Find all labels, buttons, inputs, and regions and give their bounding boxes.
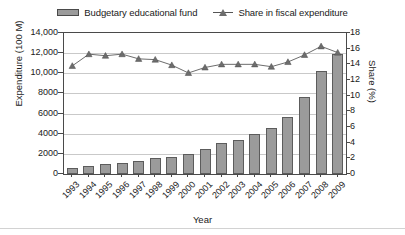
line-series (64, 33, 346, 174)
chart-legend: Budgetary educational fund Share in fisc… (0, 7, 405, 18)
y-axis-right-tick-label: 12 (350, 75, 380, 84)
y-axis-left-title: Expenditure (100 M) (13, 9, 24, 119)
y-axis-right-tick-label: 0 (350, 169, 380, 178)
line-marker (69, 63, 75, 69)
y-axis-right-tick-label: 4 (350, 138, 380, 147)
plot-area (63, 32, 347, 175)
y-axis-right-tick-label: 16 (350, 44, 380, 53)
chart-container: Budgetary educational fund Share in fisc… (0, 0, 405, 235)
line-marker (285, 59, 291, 65)
y-axis-right-tick-label: 2 (350, 153, 380, 162)
line-marker-icon (213, 8, 233, 17)
line-marker (86, 51, 92, 57)
legend-item-line: Share in fiscal expenditure (213, 7, 347, 18)
y-axis-left-tick-label: 12,000 (0, 48, 58, 57)
bar-swatch-icon (57, 9, 79, 16)
line-marker (119, 51, 125, 57)
y-axis-left-tick-label: 14,000 (0, 28, 58, 37)
line-marker (318, 43, 324, 49)
y-axis-right-tick-label: 8 (350, 106, 380, 115)
x-axis-title: Year (0, 214, 405, 225)
y-axis-right-tick-label: 6 (350, 122, 380, 131)
y-axis-left-tick-label: 6000 (0, 109, 58, 118)
bottom-divider (0, 228, 405, 229)
y-axis-left-tick-label: 2000 (0, 149, 58, 158)
legend-item-bar: Budgetary educational fund (57, 7, 197, 18)
y-axis-right-tick-label: 14 (350, 59, 380, 68)
line-marker (301, 52, 307, 58)
y-axis-left-tick-label: 4000 (0, 129, 58, 138)
y-axis-left-tick-label: 0 (0, 169, 58, 178)
y-axis-right-tick-label: 10 (350, 91, 380, 100)
y-axis-left-tick-label: 10,000 (0, 68, 58, 77)
legend-label-line: Share in fiscal expenditure (238, 7, 347, 18)
y-axis-left-tick-label: 8000 (0, 88, 58, 97)
y-axis-right-tick-label: 18 (350, 28, 380, 37)
legend-label-bar: Budgetary educational fund (84, 7, 197, 18)
